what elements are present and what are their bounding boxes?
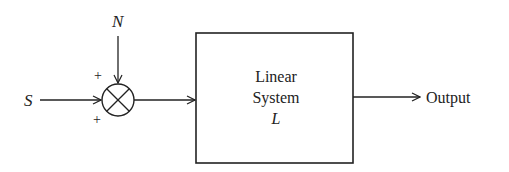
block-label-line2: System bbox=[252, 89, 300, 107]
plus-sign-left: + bbox=[93, 112, 101, 127]
plus-sign-top: + bbox=[94, 68, 102, 83]
noise-input-label: N bbox=[111, 12, 125, 31]
block-label-line3: L bbox=[271, 110, 281, 127]
block-label-line1: Linear bbox=[255, 68, 297, 85]
block-diagram: S N + + Linear System L Output bbox=[0, 0, 509, 172]
signal-input-label: S bbox=[24, 91, 33, 110]
output-label: Output bbox=[426, 89, 471, 107]
summing-junction-icon bbox=[102, 84, 134, 116]
